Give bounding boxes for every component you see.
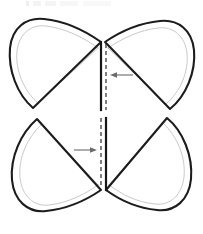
upper-left-petal <box>10 19 101 108</box>
lower-arrow-right-icon <box>74 147 97 153</box>
lower-right-petal <box>106 118 191 210</box>
diagram-canvas <box>0 0 203 234</box>
lower-left-petal <box>12 119 101 211</box>
direction-arrows <box>74 72 133 153</box>
butterfly-pattern-figure <box>0 0 203 234</box>
upper-arrow-left-icon <box>110 72 133 78</box>
upper-right-petal <box>105 21 194 109</box>
fold-lines <box>101 42 106 190</box>
